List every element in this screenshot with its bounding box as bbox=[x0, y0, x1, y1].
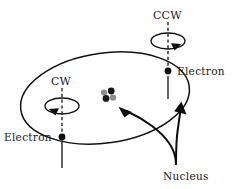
nucleon-particle bbox=[103, 95, 110, 102]
nucleus-cluster bbox=[101, 88, 116, 102]
nucleon-particle bbox=[110, 94, 116, 100]
label-electron-left: Electron bbox=[4, 131, 52, 143]
electron-orbit-diagram: CCW CW Electron Electron Nucleus bbox=[0, 0, 232, 189]
electron-dot-right bbox=[165, 68, 172, 75]
label-ccw: CCW bbox=[153, 9, 182, 22]
nucleus-pointer-left-arrowhead-icon bbox=[119, 107, 132, 118]
label-cw: CW bbox=[51, 75, 72, 88]
nucleus-pointer-right-arrowhead-icon bbox=[174, 102, 186, 115]
label-electron-right: Electron bbox=[177, 65, 225, 77]
electron-dot-left bbox=[59, 134, 66, 141]
nucleus-pointer-right-curve bbox=[176, 111, 181, 165]
label-nucleus: Nucleus bbox=[163, 170, 209, 182]
nucleon-particle bbox=[108, 88, 115, 95]
diagram-canvas: CCW CW Electron Electron Nucleus bbox=[0, 0, 232, 189]
nucleon-particle bbox=[101, 89, 107, 95]
